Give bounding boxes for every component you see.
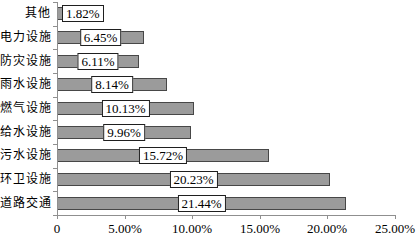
data-label: 6.45% bbox=[80, 29, 122, 46]
y-axis-tick bbox=[53, 2, 57, 3]
category-label: 防灾设施 bbox=[0, 53, 51, 70]
data-label: 9.96% bbox=[103, 124, 145, 141]
category-label: 燃气设施 bbox=[0, 100, 51, 117]
x-axis-tick-label: 10.00% bbox=[172, 222, 212, 236]
category-label: 道路交通 bbox=[0, 195, 51, 212]
data-label: 21.44% bbox=[177, 195, 225, 212]
y-axis-tick bbox=[53, 73, 57, 74]
y-axis-tick bbox=[53, 168, 57, 169]
category-label: 环卫设施 bbox=[0, 171, 51, 188]
x-axis-tick bbox=[57, 215, 58, 219]
x-axis-line bbox=[57, 215, 396, 216]
data-label: 15.72% bbox=[139, 147, 187, 164]
x-axis-tick bbox=[125, 215, 126, 219]
y-axis-tick bbox=[53, 26, 57, 27]
y-axis-tick bbox=[53, 120, 57, 121]
y-axis-tick bbox=[53, 97, 57, 98]
data-label: 6.11% bbox=[77, 53, 118, 70]
x-axis-tick bbox=[192, 215, 193, 219]
data-label: 8.14% bbox=[91, 76, 133, 93]
category-label: 给水设施 bbox=[0, 124, 51, 141]
x-axis-tick-label: 20.00% bbox=[307, 222, 347, 236]
bar-chart: 其他1.82%电力设施6.45%防灾设施6.11%雨水设施8.14%燃气设施10… bbox=[0, 0, 419, 244]
category-label: 雨水设施 bbox=[0, 76, 51, 93]
x-axis-tick bbox=[327, 215, 328, 219]
data-label: 20.23% bbox=[169, 171, 217, 188]
x-axis-tick bbox=[395, 215, 396, 219]
data-label: 1.82% bbox=[62, 5, 104, 22]
x-axis-tick-label: 0 bbox=[54, 222, 61, 236]
category-label: 污水设施 bbox=[0, 147, 51, 164]
category-label: 电力设施 bbox=[0, 29, 51, 46]
x-axis-tick-label: 25.00% bbox=[375, 222, 415, 236]
y-axis-tick bbox=[53, 191, 57, 192]
y-axis-tick bbox=[53, 49, 57, 50]
x-axis-tick bbox=[260, 215, 261, 219]
y-axis-tick bbox=[53, 144, 57, 145]
x-axis-tick-label: 5.00% bbox=[108, 222, 142, 236]
x-axis-tick-label: 15.00% bbox=[240, 222, 280, 236]
data-label: 10.13% bbox=[101, 100, 149, 117]
y-axis-line bbox=[57, 2, 58, 215]
category-label: 其他 bbox=[0, 5, 51, 22]
